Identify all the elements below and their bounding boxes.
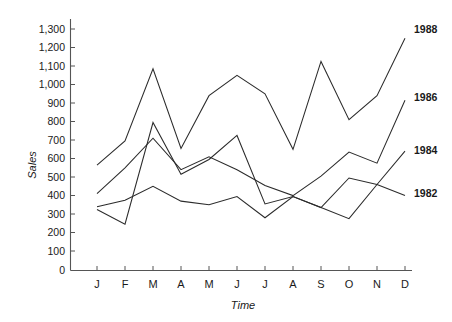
chart-canvas: 1,300 1,200 1,100 1,000 900 800 700 600 …	[0, 0, 452, 322]
y-tick-label: 800	[47, 115, 65, 127]
x-tick-label: F	[122, 278, 129, 290]
series-label-1988: 1988	[414, 23, 438, 35]
x-tick-label: S	[317, 278, 324, 290]
x-tick-label: A	[289, 278, 297, 290]
x-tick-label: M	[148, 278, 157, 290]
y-axis-tick-labels: 1,300 1,200 1,100 1,000 900 800 700 600 …	[39, 23, 65, 276]
y-tick-label: 200	[47, 226, 65, 238]
y-tick-label: 300	[47, 208, 65, 220]
x-tick-label: M	[204, 278, 213, 290]
y-tick-label: 900	[47, 97, 65, 109]
y-tick-label: 600	[47, 152, 65, 164]
series-line-1984	[97, 123, 405, 225]
series-line-1986	[97, 100, 405, 195]
y-tick-label: 1,200	[39, 41, 65, 53]
y-tick-label: 500	[47, 171, 65, 183]
y-tick-label: 400	[47, 189, 65, 201]
series-label-1984: 1984	[414, 144, 438, 156]
x-tick-marks	[97, 266, 405, 271]
series-label-1982: 1982	[414, 187, 438, 199]
x-axis-tick-labels: J F M A M J J A S O N D	[94, 278, 409, 290]
x-tick-label: N	[373, 278, 381, 290]
y-tick-label: 1,100	[39, 60, 65, 72]
series-lines	[97, 38, 405, 224]
x-tick-label: J	[94, 278, 100, 290]
y-tick-marks	[71, 29, 76, 251]
y-tick-label: 0	[59, 264, 65, 276]
x-tick-label: D	[401, 278, 409, 290]
series-line-1982	[97, 178, 405, 218]
series-label-1986: 1986	[414, 91, 438, 103]
x-tick-label: J	[234, 278, 240, 290]
series-line-1988	[97, 38, 405, 165]
y-tick-label: 1,300	[39, 23, 65, 35]
x-tick-label: A	[177, 278, 185, 290]
x-axis-title: Time	[231, 299, 255, 311]
sales-time-line-chart: 1,300 1,200 1,100 1,000 900 800 700 600 …	[0, 0, 452, 322]
y-tick-label: 1,000	[39, 78, 65, 90]
series-labels: 1988 1986 1984 1982	[414, 23, 438, 199]
y-tick-label: 700	[47, 134, 65, 146]
x-tick-label: O	[345, 278, 354, 290]
y-tick-label: 100	[47, 245, 65, 257]
x-tick-label: J	[262, 278, 268, 290]
y-axis-title: Sales	[26, 151, 38, 179]
